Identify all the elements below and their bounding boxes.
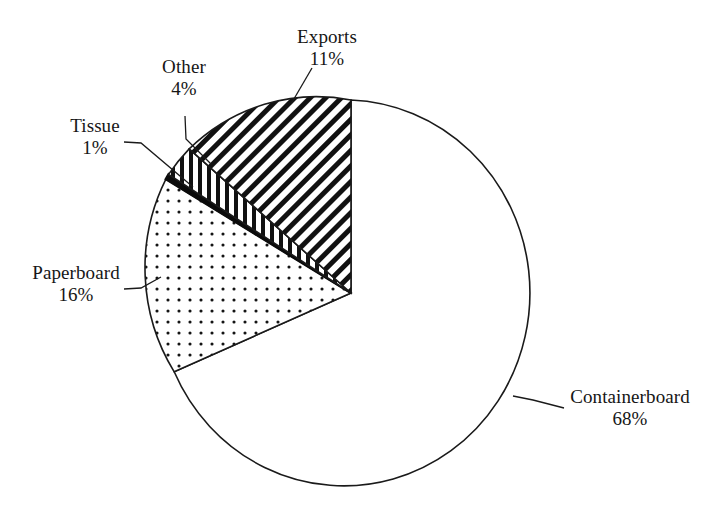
pie-label-paperboard-name: Paperboard bbox=[26, 262, 126, 284]
pie-label-tissue-value: 1% bbox=[64, 137, 126, 159]
pie-label-exports[interactable]: Exports 11% bbox=[284, 26, 370, 70]
pie-label-containerboard[interactable]: Containerboard 68% bbox=[566, 386, 694, 430]
pie-label-exports-name: Exports bbox=[284, 26, 370, 48]
pie-label-other[interactable]: Other 4% bbox=[152, 56, 216, 100]
leader-line-containerboard bbox=[513, 396, 564, 408]
pie-label-paperboard[interactable]: Paperboard 16% bbox=[26, 262, 126, 306]
pie-label-containerboard-name: Containerboard bbox=[566, 386, 694, 408]
pie-label-other-value: 4% bbox=[152, 78, 216, 100]
pie-label-paperboard-value: 16% bbox=[26, 284, 126, 306]
pie-label-exports-value: 11% bbox=[284, 48, 370, 70]
pie-label-tissue[interactable]: Tissue 1% bbox=[64, 115, 126, 159]
pie-label-tissue-name: Tissue bbox=[64, 115, 126, 137]
pie-label-containerboard-value: 68% bbox=[566, 408, 694, 430]
pie-label-other-name: Other bbox=[152, 56, 216, 78]
pie-chart-graphic bbox=[0, 0, 714, 518]
pie-chart-figure: Exports 11% Other 4% Tissue 1% Paperboar… bbox=[0, 0, 714, 518]
